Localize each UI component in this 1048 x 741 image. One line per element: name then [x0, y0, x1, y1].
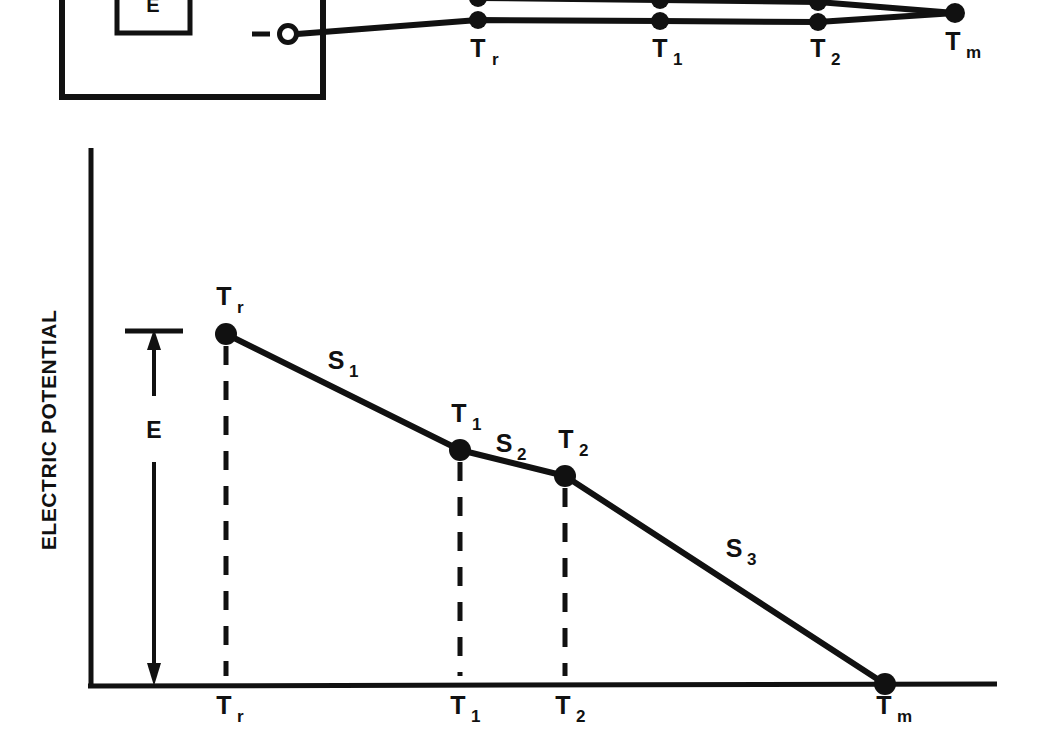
svg-text:T: T: [555, 691, 570, 719]
circuit-junction-label-t1: T 1: [652, 34, 682, 69]
data-point-tr: [215, 323, 237, 345]
svg-text:T: T: [945, 27, 960, 55]
circuit-junction-dot-t1: [651, 12, 669, 30]
emf-annotation: E: [125, 329, 183, 686]
svg-text:S: S: [496, 429, 513, 457]
circuit-junction-dot-tm: [945, 3, 965, 23]
svg-text:S: S: [328, 346, 345, 374]
svg-text:2: 2: [517, 445, 526, 464]
circuit-junction-dot-t2: [809, 13, 827, 31]
potential-plot: ELECTRIC POTENTIAL E T r: [37, 148, 997, 726]
svg-text:T: T: [450, 691, 465, 719]
svg-text:T: T: [470, 34, 485, 62]
svg-text:T: T: [558, 425, 573, 453]
svg-text:2: 2: [579, 441, 588, 460]
svg-text:2: 2: [576, 707, 585, 726]
segment-label-s3: S 3: [726, 534, 757, 569]
meter-label: E: [146, 0, 159, 16]
circuit-junction-label-tr: T r: [470, 34, 499, 69]
svg-text:m: m: [966, 43, 981, 62]
svg-text:T: T: [216, 282, 231, 310]
circuit-junction-dot-tr: [469, 11, 487, 29]
circuit-junction-dot-tr-upper: [469, 0, 487, 7]
figure-canvas: E T r T 1 T 2 T m: [0, 0, 1048, 741]
y-axis-title: ELECTRIC POTENTIAL: [37, 310, 60, 551]
data-point-t2: [554, 465, 576, 487]
potential-profile-line: [226, 334, 885, 684]
svg-text:2: 2: [831, 50, 840, 69]
svg-text:3: 3: [747, 550, 756, 569]
svg-text:r: r: [492, 50, 499, 69]
terminal-post: [280, 26, 297, 43]
svg-text:T: T: [216, 691, 231, 719]
data-point-t1: [449, 439, 471, 461]
x-tick-label-t1: T 1: [450, 691, 480, 726]
thermocouple-wire-lower: [297, 13, 955, 34]
data-label-tr: T r: [216, 282, 244, 317]
svg-text:r: r: [237, 298, 244, 317]
data-label-t1: T 1: [451, 399, 481, 434]
circuit-junction-dot-t1-upper: [651, 0, 669, 9]
x-tick-label-tm: T m: [876, 691, 912, 726]
thermocouple-wire-upper: [330, 0, 955, 13]
circuit-junction-dot-t2-upper: [809, 0, 827, 11]
circuit-junction-label-t2: T 2: [810, 34, 840, 69]
svg-text:S: S: [726, 534, 743, 562]
svg-text:T: T: [451, 399, 466, 427]
svg-text:1: 1: [673, 50, 682, 69]
svg-text:m: m: [897, 707, 912, 726]
svg-text:1: 1: [471, 707, 480, 726]
svg-text:T: T: [810, 34, 825, 62]
svg-text:r: r: [237, 707, 244, 726]
svg-text:T: T: [876, 691, 891, 719]
svg-text:1: 1: [349, 362, 358, 381]
x-tick-label-tr: T r: [216, 691, 244, 726]
circuit-junction-label-tm: T m: [945, 27, 981, 62]
svg-text:1: 1: [472, 415, 481, 434]
segment-label-s1: S 1: [328, 346, 359, 381]
thermocouple-potential-figure: E T r T 1 T 2 T m: [0, 0, 1048, 741]
x-axis: [88, 684, 997, 686]
emf-label: E: [146, 417, 161, 443]
svg-text:T: T: [652, 34, 667, 62]
x-tick-label-t2: T 2: [555, 691, 585, 726]
data-label-t2: T 2: [558, 425, 588, 460]
circuit-diagram: E T r T 1 T 2 T m: [62, 0, 981, 97]
emf-arrow-down-head: [147, 663, 161, 686]
